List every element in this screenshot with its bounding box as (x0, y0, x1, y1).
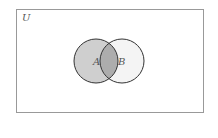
set-a-label: A (92, 56, 100, 67)
universe-label: U (22, 12, 31, 23)
set-b-label: B (117, 56, 125, 67)
venn-diagram: U A B (0, 0, 218, 138)
